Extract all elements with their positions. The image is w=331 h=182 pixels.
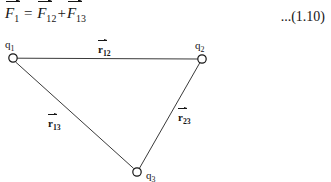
vector-term-r12: r12: [98, 44, 111, 58]
node-label-q1: q1: [5, 39, 14, 53]
vector-arrow-icon: [38, 0, 52, 4]
edge-q1-q3: [16, 62, 134, 168]
node-label-q2: q2: [195, 40, 204, 54]
node-circle-q1: [9, 54, 17, 62]
symbol-f13: F: [67, 5, 76, 21]
edge-label-r23: r23: [178, 112, 191, 126]
subscript-f13: 13: [76, 13, 86, 24]
symbol-f1: F: [5, 5, 14, 21]
edge-q1-q2: [17, 58, 198, 59]
node-label-q2-subscript: 2: [201, 45, 205, 54]
subscript-r23: 23: [183, 117, 191, 126]
vector-arrow-icon: [6, 0, 20, 4]
edge-label-r12: r12: [98, 44, 111, 58]
symbol-f12: F: [37, 5, 46, 21]
vector-term-r13: r13: [48, 118, 61, 132]
node-label-q1-subscript: 1: [11, 44, 15, 53]
triangle-svg: [0, 30, 331, 182]
plus-operator: +: [56, 5, 66, 21]
node-circle-q3: [133, 168, 141, 176]
subscript-r12: 12: [103, 49, 111, 58]
node-label-q3: q3: [146, 170, 155, 182]
figure-page: F1 = F12+F13 ...(1.10) q1 q2 q3 r12: [0, 0, 331, 182]
equation-number: ...(1.10): [281, 10, 325, 24]
subscript-r13: 13: [53, 123, 61, 132]
charge-triangle-diagram: q1 q2 q3 r12 r13 r23: [0, 30, 331, 182]
subscript-f1: 1: [14, 13, 19, 24]
vector-term-f13: F13: [67, 6, 86, 24]
vector-term-r23: r23: [178, 112, 191, 126]
equation-row: F1 = F12+F13 ...(1.10): [0, 0, 331, 34]
edge-label-r13: r13: [48, 118, 61, 132]
node-label-q3-subscript: 3: [152, 175, 156, 182]
vector-term-f1: F1: [5, 6, 19, 24]
subscript-f12: 12: [46, 13, 56, 24]
force-superposition-equation: F1 = F12+F13: [5, 6, 86, 24]
vector-arrow-icon: [68, 0, 82, 4]
equals-operator: =: [23, 5, 33, 21]
node-circle-q2: [198, 55, 206, 63]
vector-term-f12: F12: [37, 6, 56, 24]
